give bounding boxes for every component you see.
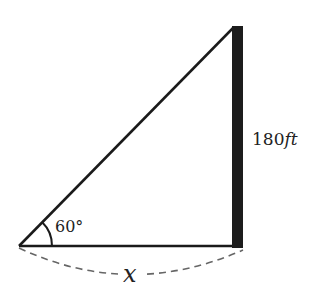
height-label: 180ft	[252, 129, 298, 149]
angle-label: 60°	[55, 217, 83, 236]
triangle-diagram: 60° 180ft x	[0, 0, 309, 293]
base-label: x	[123, 260, 137, 288]
vertical-pole	[232, 26, 243, 248]
angle-arc	[42, 222, 52, 246]
hypotenuse-line	[19, 27, 234, 246]
